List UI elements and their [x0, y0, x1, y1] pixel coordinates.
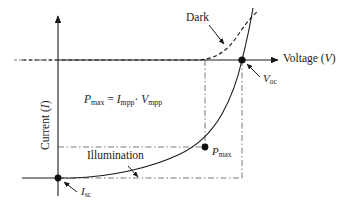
illumination-curve-label: Illumination [87, 150, 144, 162]
dark-leader-arrow [209, 25, 224, 44]
voc-label-base: V [263, 72, 270, 84]
y-axis-title-paren-close: ) [39, 100, 51, 104]
illumination-leader-arrow [128, 166, 138, 177]
y-axis-title-text: Current [39, 115, 51, 150]
pmax-label-sub: max [219, 150, 232, 159]
formula-rhs1-base: I [117, 93, 121, 105]
voc-label-sub: oc [270, 77, 277, 86]
x-axis-title-paren-close: ) [332, 52, 336, 64]
x-axis-title-text: Voltage [283, 52, 318, 64]
isc-point-label: Isc [81, 186, 91, 197]
x-axis-title: Voltage (V) [283, 53, 336, 65]
pmax-formula: Pmax = Impp· Vmpp [84, 94, 162, 106]
formula-lhs-base: P [84, 93, 91, 105]
formula-rhs1-sub: mpp [121, 98, 135, 107]
formula-equals-wrap: = [104, 93, 116, 105]
x-axis-title-paren-open: ( [318, 52, 325, 64]
y-axis-title-paren-open: ( [39, 108, 51, 115]
y-axis-title-symbol: I [39, 104, 51, 108]
dark-curve-label: Dark [186, 12, 209, 24]
pmax-point-marker [202, 144, 209, 151]
formula-operator: · [134, 93, 138, 105]
leader-arrows [64, 25, 260, 192]
dark-curve [22, 11, 258, 60]
isc-point-marker [55, 175, 62, 182]
voc-leader-arrow [247, 64, 260, 77]
formula-equals: = [107, 93, 114, 105]
isc-leader-arrow [64, 182, 77, 192]
voc-point-label: Voc [263, 73, 277, 84]
pmax-label-base: P [212, 145, 219, 157]
y-axis-title: Current (I) [40, 100, 52, 150]
x-axis-title-symbol: V [325, 52, 332, 64]
data-point-markers [55, 56, 246, 181]
isc-label-sub: sc [85, 190, 91, 199]
formula-rhs2-sub: mpp [148, 98, 162, 107]
voc-point-marker [238, 56, 245, 63]
iv-characteristic-figure: Voltage (V) Current (I) Dark Illuminatio… [0, 0, 337, 214]
formula-lhs-sub: max [91, 98, 104, 107]
pmax-point-label: Pmax [212, 146, 232, 157]
